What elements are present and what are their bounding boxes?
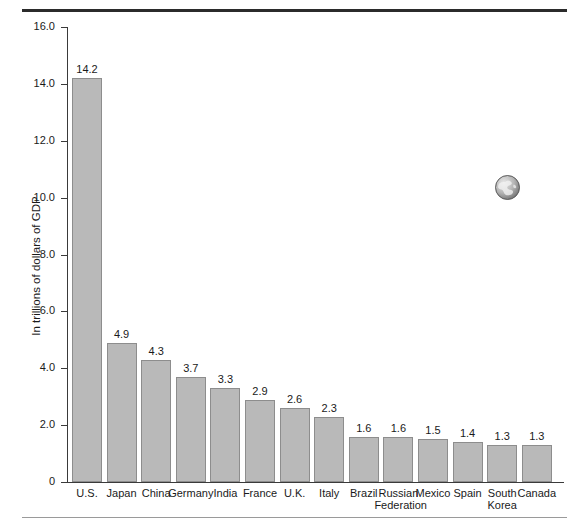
bar xyxy=(314,417,344,482)
bar xyxy=(245,400,275,482)
y-axis-tick-label-row: 12.0 xyxy=(0,135,61,146)
y-axis-title: In trillions of dollars of GDP xyxy=(30,156,42,376)
globe-icon xyxy=(494,174,521,201)
y-axis-tick-mark xyxy=(61,482,67,483)
bar xyxy=(141,360,171,482)
y-axis-tick-label-row: 2.0 xyxy=(0,419,61,430)
y-axis-tick-label: 12.0 xyxy=(34,135,61,146)
y-axis-tick-mark xyxy=(61,141,67,142)
y-axis-tick-mark xyxy=(61,255,67,256)
y-axis-tick-label: 8.0 xyxy=(40,249,61,260)
y-axis-tick-label: 14.0 xyxy=(34,78,61,89)
bar-value-label: 2.3 xyxy=(306,403,352,414)
bar xyxy=(349,437,379,483)
y-axis-tick-label-row: 16.0 xyxy=(0,21,61,32)
y-axis-tick-mark xyxy=(61,311,67,312)
y-axis-tick-mark xyxy=(61,27,67,28)
x-axis-line xyxy=(67,482,564,483)
bar xyxy=(72,78,102,482)
bar-value-label: 14.2 xyxy=(64,64,110,75)
bar xyxy=(383,437,413,483)
bar-value-label: 4.9 xyxy=(99,329,145,340)
y-axis-line xyxy=(67,27,68,483)
bar xyxy=(107,343,137,482)
bar xyxy=(280,408,310,482)
bar xyxy=(453,442,483,482)
bar xyxy=(210,388,240,482)
bar xyxy=(418,439,448,482)
y-axis-tick-label: 16.0 xyxy=(34,21,61,32)
x-axis-category-label: Canada xyxy=(513,487,561,499)
y-axis-tick-label: 2.0 xyxy=(40,419,61,430)
bar-value-label: 1.3 xyxy=(514,431,560,442)
y-axis-tick-label-row: 14.0 xyxy=(0,78,61,89)
y-axis-tick-mark xyxy=(61,84,67,85)
bar xyxy=(487,445,517,482)
bar-value-label: 3.3 xyxy=(202,374,248,385)
y-axis-tick-label: 6.0 xyxy=(40,305,61,316)
y-axis-tick-label-row: 0 xyxy=(0,476,61,487)
y-axis-tick-mark xyxy=(61,198,67,199)
bar-value-label: 4.3 xyxy=(133,346,179,357)
y-axis-tick-label: 4.0 xyxy=(40,362,61,373)
bottom-divider-rule xyxy=(22,517,567,518)
y-axis-tick-mark xyxy=(61,425,67,426)
y-axis-tick-label: 0 xyxy=(49,476,61,487)
bar-value-label: 3.7 xyxy=(168,363,214,374)
bar xyxy=(522,445,552,482)
plot-area: 16.014.012.010.08.06.04.02.00 In trillio… xyxy=(0,0,577,532)
bar xyxy=(176,377,206,482)
y-axis-tick-mark xyxy=(61,368,67,369)
